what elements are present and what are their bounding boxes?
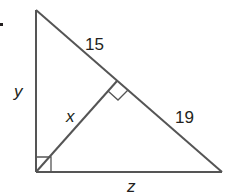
label-y: y bbox=[13, 82, 24, 101]
altitude bbox=[36, 81, 117, 172]
triangle-diagram: 15 19 y x z bbox=[0, 0, 226, 196]
bullet-dot bbox=[0, 23, 3, 26]
label-z: z bbox=[126, 177, 136, 196]
label-x: x bbox=[65, 107, 75, 126]
right-angle-mark-foot bbox=[108, 90, 128, 100]
label-15: 15 bbox=[85, 35, 104, 54]
label-19: 19 bbox=[175, 108, 194, 127]
hypotenuse bbox=[36, 10, 222, 172]
